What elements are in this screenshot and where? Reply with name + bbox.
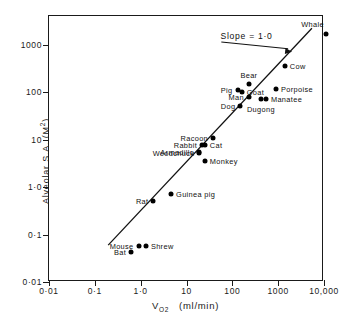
x-tick-label: 100: [224, 286, 240, 296]
y-tick-mark: [43, 235, 49, 236]
chart-figure: Alveolar S.A. (M2) VO2(ml/min) 100010010…: [0, 0, 343, 322]
x-tick-label: 1·0: [134, 286, 148, 296]
x-axis-subscript-two: 2: [165, 306, 169, 313]
data-point-label-manatee: Manatee: [271, 94, 302, 103]
data-point-label-bat: Bat: [114, 247, 126, 256]
data-point-label-porpoise: Porpoise: [281, 85, 313, 94]
data-point-label-monkey: Monkey: [210, 156, 238, 165]
y-tick-label: 0·1: [28, 230, 42, 240]
data-point-armadillo: [197, 149, 202, 154]
y-tick-label: 10: [31, 135, 42, 145]
data-point-label-man: Man: [228, 92, 243, 101]
data-point-label-whale: Whale: [301, 19, 324, 28]
data-point-label-guinea-pig: Guinea pig: [176, 189, 215, 198]
data-point-guinea-pig: [169, 191, 174, 196]
data-point-whale: [323, 31, 328, 36]
data-point-label-cow: Cow: [290, 61, 306, 70]
y-axis-title-superscript: 2: [39, 122, 46, 126]
x-tick-label: 1000: [268, 286, 289, 296]
data-point-porpoise: [274, 87, 279, 92]
data-point-label-bear: Bear: [240, 70, 257, 79]
data-point-racoon: [211, 135, 216, 140]
data-point-label-racoon: Racoon: [180, 133, 208, 142]
x-axis-title-text: V: [152, 300, 159, 311]
data-point-cow: [282, 63, 287, 68]
slope-annotation: Slope = 1·0: [221, 31, 273, 41]
x-axis-title-subscript: O2: [159, 306, 169, 313]
x-axis-title: VO2(ml/min): [48, 300, 323, 313]
data-point-shrew: [143, 244, 148, 249]
data-point-label-shrew: Shrew: [151, 242, 174, 251]
data-point-dog: [238, 103, 243, 108]
data-point-label-rat: Rat: [136, 197, 149, 206]
x-axis-units: (ml/min): [179, 300, 219, 311]
data-point-monkey: [202, 158, 207, 163]
data-point-manatee: [263, 96, 268, 101]
y-tick-mark: [43, 140, 49, 141]
data-point-label-dog: Dog: [221, 101, 236, 110]
y-tick-label: 100: [26, 87, 42, 97]
y-tick-mark: [43, 187, 49, 188]
y-tick-label: 1·0: [28, 182, 42, 192]
data-point-label-cat: Cat: [210, 140, 223, 149]
data-point-mouse: [136, 244, 141, 249]
data-point-bear: [246, 81, 251, 86]
x-tick-label: 10,000: [309, 286, 339, 296]
data-point-cat: [202, 142, 207, 147]
data-point-rat: [151, 199, 156, 204]
data-point-label-dugong: Dugong: [247, 104, 275, 113]
x-tick-label: 0·01: [39, 286, 58, 296]
data-point-bat: [129, 249, 134, 254]
data-point-man: [246, 94, 251, 99]
plot-area: 1000100101·00·10·01 0·010·11·01010010001…: [48, 15, 323, 281]
x-tick-label: 0·1: [88, 286, 102, 296]
y-tick-mark: [43, 45, 49, 46]
y-tick-label: 1000: [21, 40, 42, 50]
y-tick-mark: [43, 92, 49, 93]
x-tick-label: 10: [181, 286, 192, 296]
